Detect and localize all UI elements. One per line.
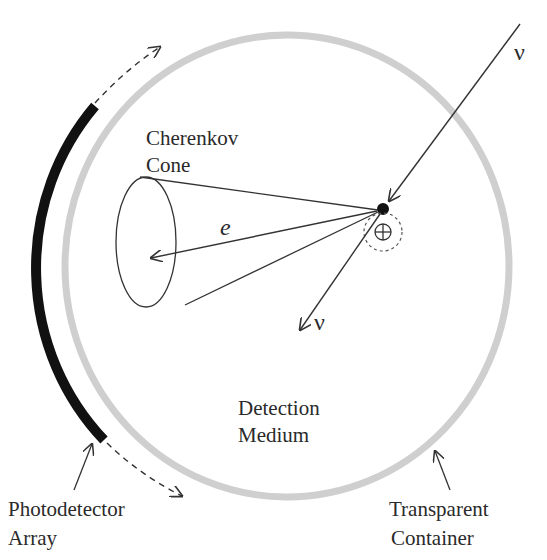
electron-track-arrow [151, 211, 377, 258]
container-pointer-arrow [435, 451, 450, 490]
electron-label: e [220, 214, 231, 240]
cherenkov-label-line1: Cherenkov [146, 126, 239, 150]
detector-diagram: Cherenkov Cone e ν ν Detection Medium Ph… [0, 0, 547, 560]
photodetector-extension-bottom-arrow [107, 443, 182, 496]
photodetector-pointer-arrow [74, 444, 92, 490]
photodetector-label-line2: Array [8, 526, 57, 550]
detection-medium-label-line2: Medium [238, 423, 309, 447]
detection-medium-label-line1: Detection [238, 396, 320, 420]
outgoing-neutrino-arrow [300, 214, 380, 330]
outgoing-neutrino-label: ν [314, 309, 325, 335]
container-label-line1: Transparent [389, 497, 489, 521]
incoming-neutrino-label: ν [514, 39, 525, 65]
photodetector-label-line1: Photodetector [8, 497, 125, 521]
incoming-neutrino-arrow [389, 24, 520, 201]
photodetector-extension-top-arrow [95, 47, 160, 103]
cherenkov-cone-top-edge [140, 177, 378, 210]
container-label-line2: Container [391, 526, 474, 550]
cherenkov-cone-base [116, 177, 176, 307]
cherenkov-label-line2: Cone [146, 153, 190, 177]
